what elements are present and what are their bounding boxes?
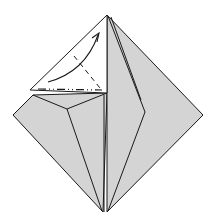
origami-diagram <box>0 0 215 220</box>
left-flap <box>13 93 107 212</box>
white-flap <box>30 15 107 93</box>
diagram-svg <box>0 0 215 220</box>
